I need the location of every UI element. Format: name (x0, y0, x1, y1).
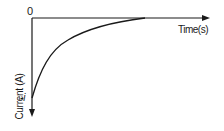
x-axis-label: Time(s) (178, 24, 208, 35)
y-tick-label: -i (20, 92, 26, 103)
current-decay-curve (32, 18, 145, 98)
origin-label: 0 (27, 5, 33, 17)
chart-canvas (0, 0, 224, 131)
y-axis-arrow-icon (29, 109, 35, 117)
x-axis-arrow-icon (202, 15, 210, 21)
